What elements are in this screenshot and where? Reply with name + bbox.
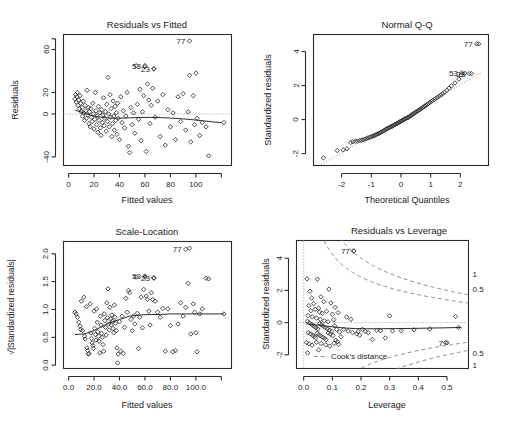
x-tick-label: 60.0 [137, 383, 153, 392]
y-tick-label: 2 [275, 288, 284, 293]
point-label-77: 77 [173, 245, 182, 254]
x-tick-label: -1 [368, 180, 376, 189]
point-label-23: 23 [141, 274, 150, 283]
y-tick-label: 0.5 [42, 331, 51, 343]
point-label-23: 23 [141, 65, 150, 74]
scale-location-svg: Scale-Location 775323 0.020.040.060.080.… [0, 212, 257, 424]
point-label-77: 77 [464, 40, 473, 49]
x-tick-label: 0.1 [327, 383, 339, 392]
panel-title: Residuals vs Leverage [351, 225, 447, 236]
panel-title: Normal Q-Q [381, 19, 432, 30]
cooks-distance-legend-label: Cook's distance [331, 352, 388, 361]
plot-frame [314, 35, 489, 166]
y-tick-label: 4 [275, 255, 284, 260]
x-axis-label: Theoretical Quantiles [364, 195, 450, 205]
point-label-23: 23 [456, 70, 465, 79]
x-tick-label: 2 [458, 180, 463, 189]
y-axis-label: Residuals [10, 80, 20, 120]
panel-scale-location: Scale-Location 775323 0.020.040.060.080.… [0, 212, 257, 424]
y-tick-label: 0 [41, 111, 50, 116]
panel-title: Scale-Location [116, 226, 179, 237]
y-axis-label: Standardized residuals [261, 258, 271, 350]
residuals-vs-fitted-svg: Residuals vs Fitted 775323 020406080100-… [0, 0, 257, 212]
x-axis-label: Fitted values [121, 195, 173, 205]
y-tick-label: 1.5 [42, 275, 51, 287]
data-layer: 775323 [64, 37, 232, 158]
residuals-vs-leverage-svg: Residuals vs Leverage 777 0.00.10.20.30.… [257, 212, 514, 424]
x-tick-label: 1 [428, 180, 433, 189]
panel-title: Residuals vs Fitted [107, 19, 187, 30]
x-tick-label: 0.3 [384, 383, 396, 392]
y-tick-label: 4 [292, 49, 301, 54]
x-axis-label: Leverage [368, 400, 406, 410]
axis-layer: 0.020.040.060.080.0100.00.00.51.01.52.0 [41, 248, 221, 392]
point-label-77: 77 [177, 37, 186, 46]
x-tick-label: 100 [189, 180, 203, 189]
cooks-distance-legend: 10.50.51Cook's distance [314, 270, 484, 370]
point-label-77: 77 [341, 247, 350, 256]
plot-frame [64, 35, 232, 166]
cooks-contour-label: 0.5 [473, 285, 485, 294]
y-tick-label: 0 [291, 117, 300, 122]
y-tick-label: 0 [275, 320, 284, 325]
x-tick-label: 40 [115, 180, 124, 189]
x-tick-label: 20 [90, 180, 99, 189]
x-tick-label: 0.0 [63, 383, 75, 392]
normal-qq-svg: Normal Q-Q 775323 -2-1012-2024 Theoretic… [257, 0, 514, 212]
y-tick-label: 1.0 [41, 303, 50, 315]
y-tick-label: 2.0 [41, 248, 50, 260]
axis-layer: 0.00.10.20.30.40.5-2024 [275, 255, 454, 391]
point-label-7: 7 [439, 339, 444, 348]
y-tick-label: 2 [292, 83, 301, 88]
plot-frame [297, 241, 469, 369]
x-tick-label: 40.0 [112, 383, 128, 392]
x-tick-label: 0 [66, 180, 71, 189]
panel-residuals-vs-fitted: Residuals vs Fitted 775323 020406080100-… [0, 0, 257, 212]
y-axis-label: √|Standardized residuals| [6, 259, 16, 355]
y-tick-label: -40 [42, 151, 51, 163]
data-layer: 775323 [321, 40, 481, 165]
y-tick-label: -2 [275, 351, 284, 359]
y-tick-label: -2 [291, 149, 300, 157]
panel-normal-qq: Normal Q-Q 775323 -2-1012-2024 Theoretic… [257, 0, 514, 212]
y-tick-label: 0.0 [41, 359, 50, 371]
x-tick-label: 0.5 [441, 383, 453, 392]
axis-layer: -2-1012-2024 [291, 49, 463, 189]
panel-residuals-vs-leverage: Residuals vs Leverage 777 0.00.10.20.30.… [257, 212, 514, 424]
x-tick-label: 0.0 [298, 383, 310, 392]
x-tick-label: 60 [141, 180, 150, 189]
x-tick-label: 20.0 [86, 383, 102, 392]
cooks-contour-label: 1 [473, 361, 478, 370]
x-tick-label: 100.0 [186, 383, 207, 392]
cooks-contour-label: 0.5 [473, 349, 485, 358]
x-tick-label: 0.2 [355, 383, 367, 392]
diagnostic-plot-figure: Residuals vs Fitted 775323 020406080100-… [0, 0, 514, 424]
y-tick-label: 20 [41, 88, 50, 97]
y-axis-label: Standardized residuals [263, 54, 273, 146]
y-tick-label: 60 [42, 45, 51, 54]
x-tick-label: 80 [166, 180, 175, 189]
x-tick-label: 80.0 [163, 383, 179, 392]
data-layer: 775323 [73, 245, 226, 365]
x-tick-label: 0.4 [413, 383, 425, 392]
x-tick-label: -2 [338, 180, 346, 189]
x-axis-label: Fitted values [121, 400, 173, 410]
x-tick-label: 0 [399, 180, 404, 189]
cooks-contour-label: 1 [473, 270, 478, 279]
